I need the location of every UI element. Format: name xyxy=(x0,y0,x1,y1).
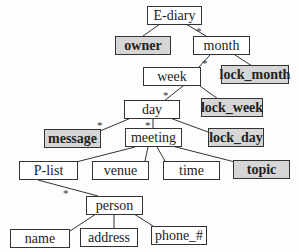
node-address: address xyxy=(80,228,138,247)
edge-meeting-time xyxy=(157,147,165,161)
node-lock-day: lock_day xyxy=(208,128,264,147)
node-meeting: meeting xyxy=(125,128,182,147)
node-name: name xyxy=(10,229,70,248)
node-time: time xyxy=(163,161,220,180)
node-owner: owner xyxy=(115,36,171,55)
e-diary-tree-diagram: * * * * * * E-diary owner month week loc… xyxy=(0,0,299,252)
edge-meeting-plist xyxy=(76,147,135,162)
node-person: person xyxy=(86,196,143,215)
node-lock-month: lock_month xyxy=(221,65,289,84)
edge-ediary-owner xyxy=(143,24,160,36)
node-e-diary: E-diary xyxy=(147,6,202,25)
node-message: message xyxy=(44,129,101,148)
edge-person-phone xyxy=(134,214,153,226)
node-week: week xyxy=(143,67,201,86)
multiplicity-star: * xyxy=(202,58,208,69)
multiplicity-star: * xyxy=(63,188,69,199)
node-day: day xyxy=(124,100,180,119)
edge-meeting-venue xyxy=(145,147,148,161)
node-p-list: P-list xyxy=(19,161,78,180)
node-phone: phone_# xyxy=(151,226,207,245)
edge-meeting-topic xyxy=(172,146,235,162)
node-lock-week: lock_week xyxy=(201,98,263,117)
node-venue: venue xyxy=(92,161,149,180)
node-topic: topic xyxy=(233,160,290,179)
node-month: month xyxy=(193,36,250,55)
